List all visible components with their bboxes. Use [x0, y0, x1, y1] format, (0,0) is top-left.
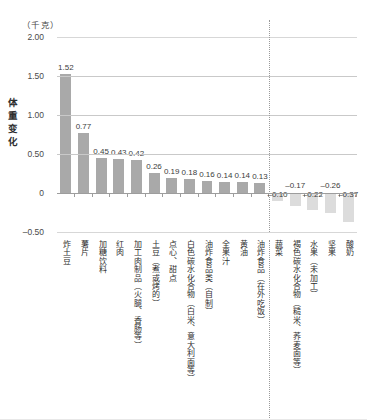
category-label: 油炸食品（在外吃饭）	[254, 240, 266, 324]
bar[interactable]	[219, 182, 230, 193]
bar-slot: 0.45	[92, 37, 110, 232]
bar-slot: –0.17	[286, 37, 304, 232]
category-label: 坚果	[325, 240, 337, 257]
bar-series: 1.520.770.450.430.420.260.190.180.160.14…	[57, 37, 357, 232]
bar[interactable]	[60, 74, 71, 193]
bar-slot: 0.14	[216, 37, 234, 232]
bar-slot: –0.37	[339, 37, 357, 232]
gridline	[57, 232, 357, 233]
bar[interactable]	[184, 179, 195, 193]
positive-negative-divider	[269, 20, 270, 232]
bar-slot: –0.22	[304, 37, 322, 232]
bar-slot: 0.42	[128, 37, 146, 232]
bar-slot: 1.52	[57, 37, 75, 232]
category-axis-labels: 炸土豆薯片加糖饮料红肉加工肉制品（火腿、香肠等）土豆（煮或烤的）点心、甜点白色碳…	[57, 240, 357, 418]
bar[interactable]	[96, 158, 107, 193]
category-label: 红肉	[113, 240, 125, 257]
bar-value-label: –0.37	[325, 190, 367, 199]
plot-area: 1.520.770.450.430.420.260.190.180.160.14…	[57, 37, 357, 232]
bar-slot: –0.10	[269, 37, 287, 232]
category-label: 水果（未加工）	[307, 240, 319, 299]
unit-caption: （千克）	[22, 18, 59, 30]
y-tick-label: 0	[4, 188, 44, 198]
y-axis-title: 体重变化	[6, 96, 20, 148]
gridline	[57, 37, 357, 38]
gridline	[57, 76, 357, 77]
bar[interactable]	[166, 178, 177, 193]
bar-slot: 0.19	[163, 37, 181, 232]
positive-negative-divider-lower	[269, 240, 270, 418]
category-label: 炸土豆	[60, 240, 72, 265]
category-label: 褐色碳水化合物（糙米、荞麦面等）	[289, 240, 301, 374]
bar-slot: 0.26	[145, 37, 163, 232]
zero-axis-line	[57, 193, 357, 194]
category-label: 酸奶	[342, 240, 354, 257]
category-label: 加工肉制品（火腿、香肠等）	[130, 240, 142, 349]
y-tick-label: 1.00	[4, 110, 44, 120]
bar-slot: 0.16	[198, 37, 216, 232]
category-label: 加糖饮料	[95, 240, 107, 274]
bar-slot: 0.43	[110, 37, 128, 232]
bar[interactable]	[113, 159, 124, 193]
bar-slot: 0.13	[251, 37, 269, 232]
y-tick-label: 0.50	[4, 149, 44, 159]
gridline	[57, 154, 357, 155]
category-label: 黄油	[236, 240, 248, 257]
bar[interactable]	[202, 181, 213, 193]
y-tick-label: 1.50	[4, 71, 44, 81]
weight-change-bar-chart: （千克） 体重变化 1.520.770.450.430.420.260.190.…	[0, 0, 367, 420]
y-tick-label: –0.50	[4, 227, 44, 237]
gridline	[57, 115, 357, 116]
bar-slot: 0.77	[75, 37, 93, 232]
category-label: 白色碳水化合物（白米、意大利面等）	[183, 240, 195, 383]
category-label: 土豆（煮或烤的）	[148, 240, 160, 307]
bar-slot: 0.14	[233, 37, 251, 232]
bar[interactable]	[237, 182, 248, 193]
category-label: 薯片	[77, 240, 89, 257]
bar-slot: –0.26	[322, 37, 340, 232]
category-label: 全果汁	[219, 240, 231, 265]
bar[interactable]	[78, 133, 89, 193]
y-tick-label: 2.00	[4, 32, 44, 42]
bar-slot: 0.18	[181, 37, 199, 232]
category-label: 点心、甜点	[166, 240, 178, 282]
category-label: 蔬菜	[272, 240, 284, 257]
category-label: 油炸食品类（自制）	[201, 240, 213, 316]
